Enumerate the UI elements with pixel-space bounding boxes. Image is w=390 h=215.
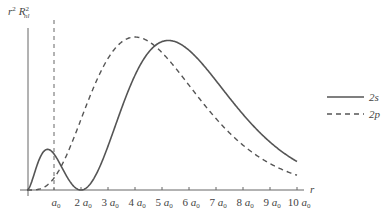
x-axis-label: r [310,183,315,195]
legend-label-2s: 2s [369,91,379,103]
y-axis-label: r2R2nl [8,5,30,20]
x-tick-label: 2 a0 [74,196,92,210]
x-tick-label: 7 a0 [209,196,227,210]
legend-item-2p: 2p [327,108,381,120]
x-tick-label: 10 a0 [288,196,311,210]
x-tick-label: 4 a0 [128,196,146,210]
x-tick-label: a0 [52,196,62,210]
x-tick-label: 3 a0 [101,196,119,210]
series-2s-curve [27,40,297,190]
x-tick-label: 8 a0 [236,196,254,210]
x-tick-label: 9 a0 [263,196,281,210]
x-tick-label: 6 a0 [182,196,200,210]
legend-label-2p: 2p [369,108,381,120]
x-axis-tick-labels: a02 a03 a04 a05 a06 a07 a08 a09 a010 a0 [52,196,311,210]
x-tick-label: 5 a0 [155,196,173,210]
legend-item-2s: 2s [327,91,379,103]
series-2p-curve [27,37,297,190]
radial-probability-chart: r2R2nl r a02 a03 a04 a05 a06 a07 a08 a09… [0,0,390,215]
legend: 2s 2p [327,91,381,120]
